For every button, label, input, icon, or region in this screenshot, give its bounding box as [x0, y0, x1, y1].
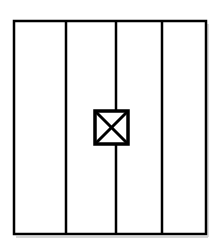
scan-shadow-right [207, 24, 209, 237]
panel-diagram [0, 0, 219, 243]
diagram-canvas [0, 0, 219, 243]
crossed-box-symbol [95, 111, 128, 144]
scan-shadow-bottom [16, 236, 208, 238]
